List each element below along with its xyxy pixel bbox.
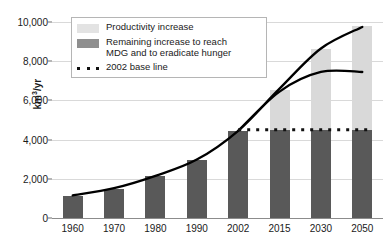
dot-icon <box>87 67 90 70</box>
dot-icon <box>96 67 99 70</box>
legend-label: 2002 base line <box>106 62 168 73</box>
x-axis-tick-label-2002: 2002 <box>227 223 249 234</box>
legend-label: Productivity increase <box>106 22 194 33</box>
x-axis-tick-label-1970: 1970 <box>103 223 125 234</box>
y-axis-tick-label: 2,000 <box>0 173 48 184</box>
dot-icon <box>77 67 80 70</box>
legend-item-0: Productivity increase <box>77 22 261 33</box>
chart-legend: Productivity increaseRemaining increase … <box>71 17 267 78</box>
chart-container: km3/yr 02,0004,0006,0008,00010,000 19601… <box>0 0 386 248</box>
y-axis-tick-label: 0 <box>0 213 48 224</box>
legend-swatch-dotted-line <box>77 64 99 73</box>
x-axis-tick-label-2050: 2050 <box>351 223 373 234</box>
x-axis-tick-label-2015: 2015 <box>268 223 290 234</box>
legend-label: Remaining increase to reach MDG and to e… <box>106 37 231 58</box>
legend-swatch-dark <box>77 39 99 48</box>
y-axis-title-suffix: /yr <box>32 79 43 91</box>
y-axis-tick-label: 8,000 <box>0 56 48 67</box>
axis-baseline <box>52 218 383 219</box>
legend-swatch-light <box>77 24 99 33</box>
y-axis-tick-label: 6,000 <box>0 95 48 106</box>
x-axis-tick-label-1990: 1990 <box>186 223 208 234</box>
y-axis-tick-label: 10,000 <box>0 17 48 28</box>
x-axis-tick-label-1960: 1960 <box>62 223 84 234</box>
lower-projection-curve <box>238 71 362 131</box>
legend-item-2: 2002 base line <box>77 62 261 73</box>
x-axis-tick-label-2030: 2030 <box>310 223 332 234</box>
y-axis-tick-label: 4,000 <box>0 134 48 145</box>
legend-item-1: Remaining increase to reach MDG and to e… <box>77 37 261 58</box>
x-axis-tick-label-1980: 1980 <box>144 223 166 234</box>
